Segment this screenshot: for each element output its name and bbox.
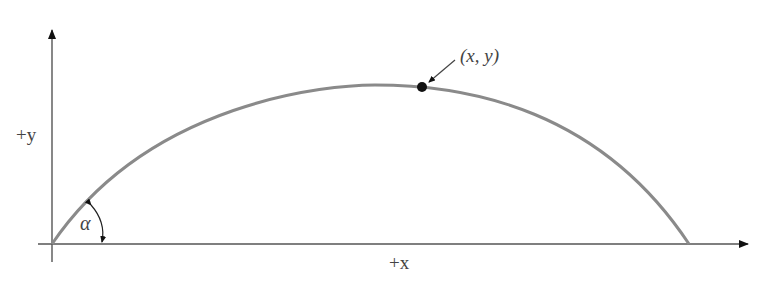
point-pointer-arrow [429,60,455,82]
trajectory-curve [52,85,689,244]
angle-arc [91,205,103,242]
angle-label: α [80,212,91,234]
projectile-diagram: +y +x α (x, y) [0,0,763,282]
point-label: (x, y) [460,45,499,67]
y-axis-label: +y [16,124,37,145]
trajectory-point [417,82,427,92]
x-axis-label: +x [389,252,410,273]
